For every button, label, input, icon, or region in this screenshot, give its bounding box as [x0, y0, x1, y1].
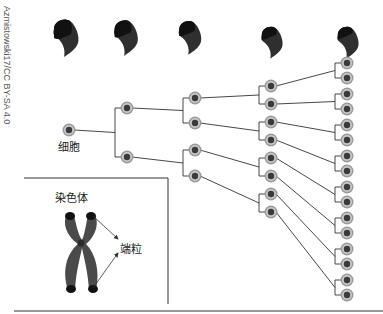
diagram-canvas: [0, 0, 383, 314]
division-line: [74, 130, 115, 133]
division-lines: [74, 63, 342, 295]
division-line: [200, 150, 259, 167]
cell-icon: [265, 206, 278, 219]
division-line: [200, 176, 259, 203]
division-line: [276, 212, 335, 288]
cell-icon: [341, 196, 354, 209]
cell-icon: [341, 88, 354, 101]
telomere-icon: [114, 20, 138, 56]
telomere-arrow-top: [93, 216, 118, 239]
cell-icon: [341, 72, 354, 85]
cell-icon: [341, 243, 354, 256]
cell-icon: [341, 181, 354, 194]
division-line: [276, 140, 335, 164]
telomere-icon: [337, 27, 358, 59]
cell-icon: [341, 212, 354, 225]
telomere-icon: [261, 27, 282, 59]
cell-icon: [341, 57, 354, 70]
cell-icon: [189, 170, 202, 183]
cell-icon: [341, 165, 354, 178]
cell-icon: [265, 98, 278, 111]
cell-label: 细胞: [58, 138, 80, 154]
cell-icon: [189, 144, 202, 157]
division-line: [132, 108, 183, 111]
cell-icon: [341, 134, 354, 147]
cell-icon: [121, 151, 134, 164]
cell-icon: [341, 274, 354, 287]
cell-icon: [189, 92, 202, 105]
cell-icon: [265, 170, 278, 183]
cell-icon: [341, 227, 354, 240]
cell-icon: [265, 134, 278, 147]
division-line: [276, 102, 335, 105]
division-line: [276, 71, 335, 87]
division-line: [200, 95, 259, 98]
division-line: [276, 176, 335, 226]
division-line: [132, 157, 183, 163]
cell-icon: [341, 150, 354, 163]
division-line: [276, 122, 335, 133]
cell-icon: [265, 188, 278, 201]
telomere-icon: [53, 19, 78, 57]
chromosome-label: 染色体: [55, 189, 88, 205]
cell-icon: [121, 102, 134, 115]
cell-icon: [341, 289, 354, 302]
credit-text: Azmistowski17/CC BY-SA 4.0: [2, 6, 12, 124]
cell-icon: [341, 258, 354, 271]
division-line: [200, 123, 259, 131]
telomere-label: 端粒: [120, 240, 142, 256]
cell-icon: [265, 116, 278, 129]
telomere-shortening-diagram: Azmistowski17/CC BY-SA 4.0 细胞 染色体 端粒: [0, 0, 383, 314]
cell-icon: [341, 119, 354, 132]
division-line: [276, 158, 335, 195]
chromosome-icon: [65, 212, 98, 293]
telomere-icon: [179, 21, 202, 55]
telomere-icons: [53, 19, 358, 58]
cell-icon: [189, 117, 202, 130]
cell-icon: [265, 80, 278, 93]
cell-icon: [265, 152, 278, 165]
cell-icon: [63, 124, 76, 137]
cell-icon: [341, 103, 354, 116]
division-line: [276, 194, 335, 257]
